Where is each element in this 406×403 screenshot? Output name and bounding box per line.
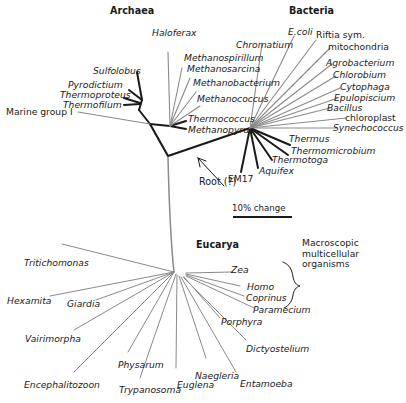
taxon-label-giardia: Giardia <box>67 299 100 309</box>
taxon-label-agrobacterium: Agrobacterium <box>326 58 394 68</box>
taxon-label-chromatium: Chromatium <box>236 40 293 50</box>
taxon-label-naegleria: Naegleria <box>195 371 239 381</box>
taxon-label-coprinus: Coprinus <box>246 293 287 303</box>
taxon-label-hexamita: Hexamita <box>7 296 51 306</box>
phylogenetic-tree-figure: Archaea Bacteria Eucarya Marine group I … <box>0 0 406 403</box>
taxon-label-thermococcus: Thermococcus <box>188 114 255 124</box>
taxon-label-porphyra: Porphyra <box>221 317 262 327</box>
taxon-label-thermus: Thermus <box>289 134 329 144</box>
taxon-label-physarum: Physarum <box>118 360 164 370</box>
archaea-thick-branches <box>124 72 186 129</box>
taxon-label-thermofilum: Thermofilum <box>63 100 122 110</box>
domain-title-archaea: Archaea <box>110 6 154 16</box>
taxon-label-methanosarcina: Methanosarcina <box>187 64 260 74</box>
taxon-label-thermotoga: Thermotoga <box>272 155 328 165</box>
taxon-label-mitochondria: mitochondria <box>328 42 389 52</box>
scale-bar-label: 10% change <box>232 203 285 213</box>
taxon-label-dictyostelium: Dictyostelium <box>246 344 309 354</box>
taxon-label-homo: Homo <box>247 282 274 292</box>
taxon-label-haloferax: Haloferax <box>152 28 196 38</box>
root-annotation-label: Root (?) <box>199 177 236 187</box>
taxon-label-methanopyrus: Methanopyrus <box>188 125 254 135</box>
taxon-label-vairimorpha: Vairimorpha <box>25 334 81 344</box>
taxon-label-methanococcus: Methanococcus <box>197 94 268 104</box>
macroscopic-group-label: Macroscopic multicellular organisms <box>302 238 376 270</box>
taxon-label-zea: Zea <box>231 265 249 275</box>
taxon-label-methanospirillum: Methanospirillum <box>184 53 263 63</box>
taxon-label-euglena: Euglena <box>177 380 214 390</box>
eucarya-trunk <box>168 157 174 272</box>
taxon-label-cytophaga: Cytophaga <box>340 82 390 92</box>
taxon-label-tritichomonas: Tritichomonas <box>24 258 89 268</box>
taxon-label-ecoli: E.coli <box>288 27 313 37</box>
scale-bar <box>233 216 292 218</box>
taxon-label-riftia-sym: Riftia sym. <box>316 30 365 40</box>
taxon-label-entamoeba: Entamoeba <box>240 379 293 389</box>
taxon-label-sulfolobus: Sulfolobus <box>93 66 141 76</box>
taxon-label-synechococcus: Synechococcus <box>333 123 404 133</box>
taxon-label-thermoproteus: Thermoproteus <box>60 90 131 100</box>
domain-title-bacteria: Bacteria <box>289 6 334 16</box>
taxon-label-paramecium: Paramecium <box>253 305 311 315</box>
taxon-label-chlorobium: Chlorobium <box>333 70 386 80</box>
taxon-label-encephalitozoon: Encephalitozoon <box>24 380 100 390</box>
taxon-label-methanobacterium: Methanobacterium <box>193 78 280 88</box>
domain-title-eucarya: Eucarya <box>196 240 239 250</box>
taxon-label-pyrodictium: Pyrodictium <box>68 80 123 90</box>
taxon-label-trypanosoma: Trypanosoma <box>119 385 181 395</box>
taxon-label-aquifex: Aquifex <box>259 166 294 176</box>
